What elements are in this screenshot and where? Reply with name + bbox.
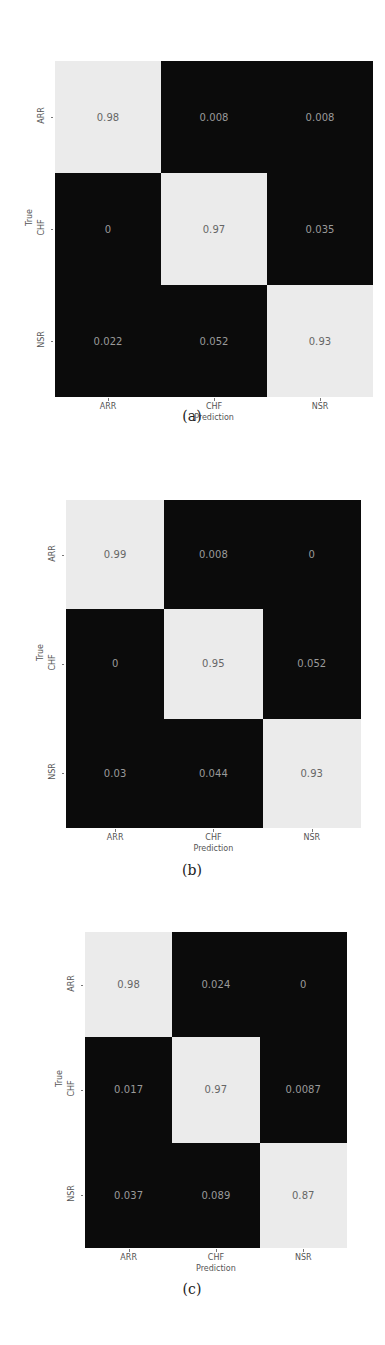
matrix-cell-chf-chf: 0.97 <box>172 1037 259 1142</box>
confusion-matrix-grid: 0.980.02400.0170.970.00870.0370.0890.87 <box>85 932 347 1248</box>
matrix-cell-arr-chf: 0.024 <box>172 932 259 1037</box>
matrix-cell-nsr-nsr: 0.87 <box>260 1143 347 1248</box>
x-tick-mark <box>129 1249 130 1252</box>
confusion-matrix-panel-c: 0.980.02400.0170.970.00870.0370.0890.87A… <box>0 0 385 1345</box>
y-tick-label: ARR <box>67 971 76 995</box>
x-tick-mark <box>303 1249 304 1252</box>
y-tick-mark <box>81 985 83 986</box>
matrix-cell-arr-nsr: 0 <box>260 932 347 1037</box>
y-tick-mark <box>81 1195 83 1196</box>
matrix-cell-arr-arr: 0.98 <box>85 932 172 1037</box>
y-tick-label: NSR <box>67 1182 76 1206</box>
x-tick-mark <box>216 1249 217 1252</box>
matrix-cell-chf-nsr: 0.0087 <box>260 1037 347 1142</box>
y-axis-label: True <box>55 1066 64 1090</box>
matrix-cell-nsr-chf: 0.089 <box>172 1143 259 1248</box>
y-tick-label: CHF <box>67 1076 76 1100</box>
x-tick-label: CHF <box>196 1253 236 1262</box>
y-tick-mark <box>81 1090 83 1091</box>
panel-caption: (c) <box>162 1281 222 1297</box>
x-tick-label: ARR <box>109 1253 149 1262</box>
x-axis-label: Prediction <box>176 1264 256 1273</box>
x-tick-label: NSR <box>283 1253 323 1262</box>
matrix-cell-chf-arr: 0.017 <box>85 1037 172 1142</box>
matrix-cell-nsr-arr: 0.037 <box>85 1143 172 1248</box>
